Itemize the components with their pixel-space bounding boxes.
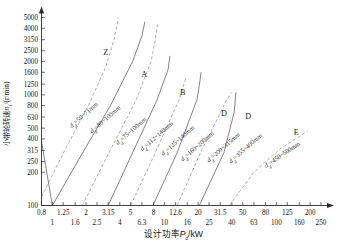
y-tick-label: 5000 (24, 14, 39, 22)
x-tick-label-upper: 8 (152, 209, 156, 217)
svg-text:dd=450~500mm: dd=450~500mm (263, 140, 303, 171)
x-tick-label-upper: 200 (305, 209, 316, 217)
x-tick-label-lower: 160 (294, 219, 305, 227)
x-tick-label-lower: 6.3 (137, 219, 146, 227)
x-tick-label-lower: 40 (228, 219, 236, 227)
x-tick-label-upper: 125 (282, 209, 293, 217)
curve-letter-z: Z (103, 48, 108, 57)
y-tick-label: 400 (27, 135, 38, 143)
curve-letter-b: B (180, 88, 186, 97)
x-tick-label-upper: 80 (262, 209, 270, 217)
y-tick-label: 250 (27, 158, 38, 166)
x-tick-label-lower: 250 (316, 219, 327, 227)
x-tick-label-lower: 63 (250, 219, 258, 227)
svg-text:小带轮转速n1/(r/min): 小带轮转速n1/(r/min) (2, 81, 13, 146)
y-tick-label: 630 (27, 114, 38, 122)
y-tick-label: 2000 (24, 58, 39, 66)
x-tick-label-lower: 2.5 (92, 219, 101, 227)
x-axis-arrow (327, 203, 334, 208)
x-tick-label-upper: 3.15 (102, 209, 115, 217)
selection-chart-svg: 1002002503154005006308001000125016002000… (0, 0, 340, 247)
x-axis-title: 设计功率Pd/kW (144, 228, 204, 241)
curve-label-layer: dd=50~71mmZdd=80~100mmdd=75~100mmAdd=112… (68, 48, 303, 171)
tick-label-layer: 1002002503154005006308001000125016002000… (24, 14, 327, 227)
y-tick-label: 500 (27, 125, 38, 133)
x-tick-label-lower: 16 (184, 219, 192, 227)
x-tick-label-lower: 10 (161, 219, 169, 227)
chart-container: 1002002503154005006308001000125016002000… (0, 0, 340, 247)
x-tick-label-upper: 50 (239, 209, 247, 217)
curve-letter-d: D (221, 109, 227, 118)
y-tick-label: 1000 (24, 91, 39, 99)
y-tick-label: 1250 (24, 81, 39, 89)
x-tick-label-upper: 0.8 (37, 209, 46, 217)
y-tick-label: 2500 (24, 47, 39, 55)
x-tick-label-lower: 25 (205, 219, 213, 227)
x-tick-label-lower: 1 (51, 219, 55, 227)
y-tick-label: 315 (27, 147, 38, 155)
x-tick-label-lower: 100 (271, 219, 282, 227)
y-tick-label: 3150 (24, 36, 39, 44)
x-tick-label-upper: 1.25 (57, 209, 70, 217)
curve-letter-e: E (294, 128, 299, 137)
curve-label-e: dd=450~500mm (263, 140, 303, 171)
curve-a (82, 23, 157, 206)
y-axis-arrow (39, 7, 44, 14)
axis-layer (39, 7, 334, 209)
x-tick-label-upper: 5 (129, 209, 133, 217)
y-tick-label: 800 (27, 102, 38, 110)
curve-letter-d: D (245, 112, 251, 121)
x-tick-label-lower: 4 (118, 219, 122, 227)
curve-letter-a: A (141, 70, 147, 79)
x-tick-label-upper: 2 (84, 209, 88, 217)
y-tick-label: 1600 (24, 69, 39, 77)
curve-z (42, 18, 119, 197)
x-tick-label-upper: 20 (195, 209, 203, 217)
y-axis-title: 小带轮转速n1/(r/min) (2, 81, 13, 146)
x-tick-label-upper: 12.6 (169, 209, 182, 217)
x-tick-label-lower: 1.6 (71, 219, 80, 227)
x-tick-label-upper: 31.5 (214, 209, 227, 217)
y-tick-label: 4000 (24, 25, 39, 33)
y-tick-label: 200 (27, 169, 38, 177)
